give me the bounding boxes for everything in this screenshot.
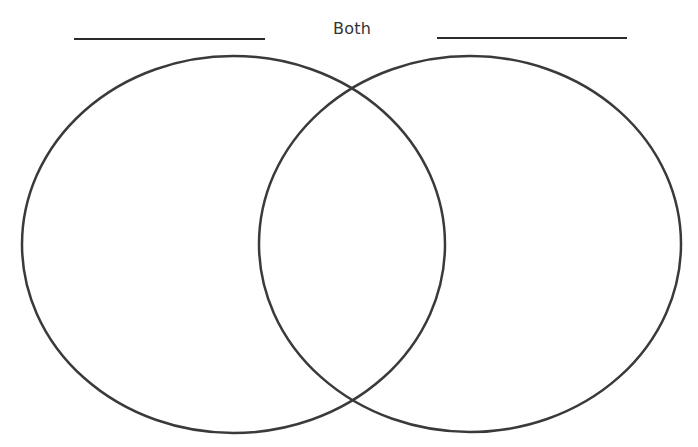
right-set-circle[interactable]	[259, 56, 681, 432]
left-set-circle[interactable]	[22, 56, 445, 433]
venn-circles	[0, 0, 698, 447]
